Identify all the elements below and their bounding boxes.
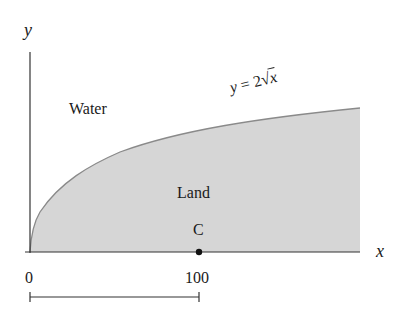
tick-label-0: 0 <box>25 270 33 286</box>
tick-label-100: 100 <box>185 270 209 286</box>
point-c-label: C <box>193 222 204 238</box>
equation-equals: = <box>239 75 252 94</box>
land-label: Land <box>177 185 210 201</box>
water-label: Water <box>69 101 107 117</box>
y-axis-label: y <box>24 21 32 39</box>
point-c-marker <box>196 249 202 255</box>
x-axis-label: x <box>376 242 384 260</box>
scale-bar <box>30 292 199 302</box>
